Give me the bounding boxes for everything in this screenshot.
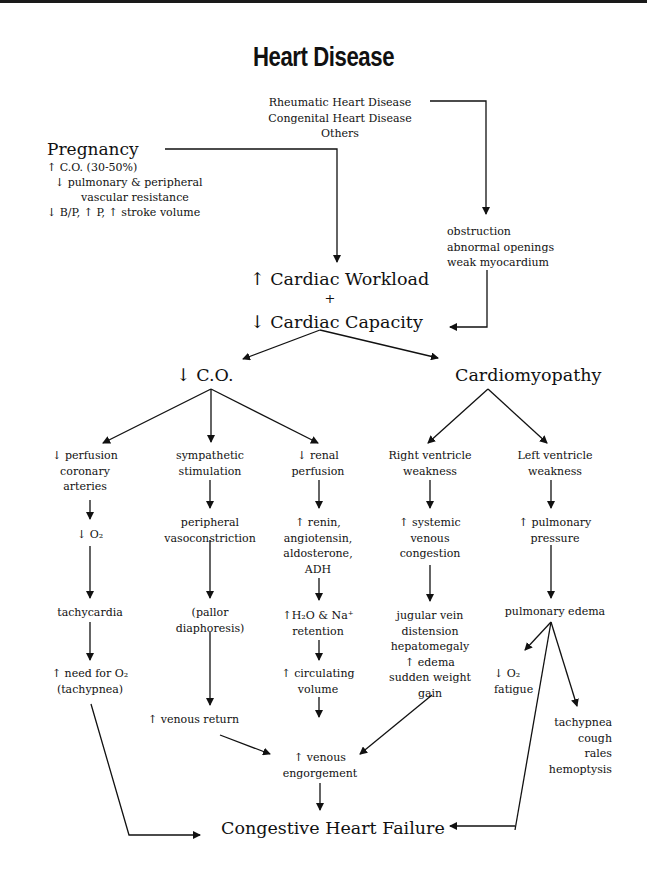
flow-connectors (0, 0, 647, 879)
